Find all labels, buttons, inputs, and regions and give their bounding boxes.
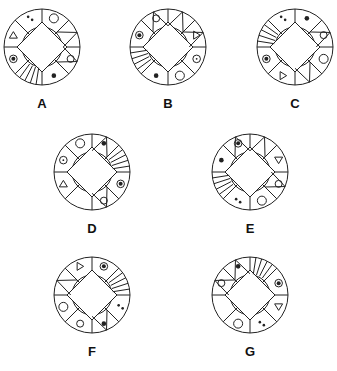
hatch-line: [36, 68, 39, 85]
figure-label-c: C: [290, 96, 299, 111]
dot-icon: [236, 141, 240, 145]
figure-d: [54, 134, 130, 210]
dot-icon: [52, 73, 57, 78]
triangle-icon: [9, 32, 17, 39]
figure-label-b: B: [163, 96, 172, 111]
bullseye-icon: [100, 263, 108, 271]
dot-icon: [102, 141, 107, 146]
divider-line: [263, 308, 277, 322]
dot-icon: [196, 58, 198, 60]
dot-icon: [239, 201, 242, 204]
triangle-down-icon: [275, 304, 283, 311]
dot-icon: [305, 16, 310, 21]
hatch-line: [137, 59, 151, 69]
figure-e: [212, 134, 288, 210]
hatch-line: [253, 257, 256, 274]
triangle-icon: [280, 72, 287, 80]
puzzle-canvas: [0, 0, 337, 371]
circle-icon: [76, 139, 85, 148]
dot-icon: [119, 182, 123, 186]
circle-icon: [59, 302, 68, 311]
triangle-icon: [275, 304, 283, 311]
triangle-icon: [59, 180, 67, 187]
two-dots-icon: [259, 321, 266, 327]
hatch-line: [219, 184, 233, 194]
dot-icon: [219, 158, 224, 163]
dot-icon: [102, 141, 107, 146]
two-dots-icon: [235, 198, 242, 204]
figure-label-g: G: [245, 344, 255, 359]
dot-icon: [11, 57, 15, 61]
triangle-right-icon: [77, 262, 84, 270]
triangle-up-icon: [9, 32, 17, 39]
dot-icon: [31, 19, 34, 22]
dot-icon: [62, 159, 64, 161]
circle-icon: [49, 14, 58, 23]
dot-icon: [154, 73, 159, 78]
dot-icon: [236, 264, 241, 269]
figure-c: [257, 9, 333, 85]
bullseye-icon: [117, 180, 125, 188]
circle-icon: [234, 319, 243, 328]
dot-icon: [236, 264, 241, 269]
divider-line: [15, 20, 29, 34]
dot-icon: [263, 324, 266, 327]
dot-icon: [219, 158, 224, 163]
hatch-line: [262, 264, 272, 278]
bullseye-icon: [10, 55, 18, 63]
hatch-line: [212, 175, 229, 178]
triangle-icon: [275, 157, 283, 164]
dot-icon: [284, 19, 287, 22]
hatch-line: [109, 273, 123, 283]
dot-icon: [264, 57, 268, 61]
dot-icon: [102, 264, 106, 268]
dotted-circle-icon: [60, 156, 68, 164]
hatch-line: [113, 289, 130, 292]
figure-label-f: F: [88, 344, 96, 359]
dot-icon: [277, 281, 281, 285]
circle-icon: [76, 139, 85, 148]
circle-icon: [234, 319, 243, 328]
figure-g: [212, 257, 288, 333]
bullseye-icon: [263, 55, 271, 63]
circle-icon: [319, 54, 328, 63]
dot-icon: [52, 73, 57, 78]
figure-f: [54, 257, 130, 333]
circle-icon: [59, 302, 68, 311]
dotted-circle-icon: [193, 55, 201, 63]
bullseye-icon: [275, 279, 283, 287]
circle-icon: [257, 196, 266, 205]
hatch-line: [109, 150, 123, 160]
dot-icon: [137, 33, 141, 37]
two-dots-icon: [280, 16, 287, 22]
figure-label-a: A: [37, 96, 46, 111]
hatch-line: [20, 64, 30, 78]
triangle-up-icon: [59, 180, 67, 187]
figure-label-d: D: [87, 221, 96, 236]
two-dots-icon: [27, 16, 34, 22]
figure-a: [4, 9, 80, 85]
dot-icon: [305, 16, 310, 21]
hatch-line: [130, 50, 147, 53]
dot-icon: [235, 198, 238, 201]
hatch-line: [257, 41, 274, 44]
circle-icon: [319, 54, 328, 63]
hatch-line: [113, 166, 130, 169]
dot-icon: [102, 321, 107, 326]
dot-icon: [154, 73, 159, 78]
small-circle-icon: [77, 320, 84, 327]
bullseye-icon: [136, 31, 144, 39]
circle-icon: [49, 14, 58, 23]
two-dots-icon: [117, 304, 124, 310]
dot-icon: [259, 321, 262, 324]
dot-icon: [117, 304, 120, 307]
circle-icon: [175, 71, 184, 80]
dot-icon: [121, 307, 124, 310]
triangle-down-icon: [275, 157, 283, 164]
circle-icon: [257, 196, 266, 205]
dot-icon: [280, 16, 283, 19]
triangle-icon: [77, 262, 84, 270]
dot-icon: [27, 16, 30, 19]
dot-icon: [102, 321, 107, 326]
circle-icon: [175, 71, 184, 80]
